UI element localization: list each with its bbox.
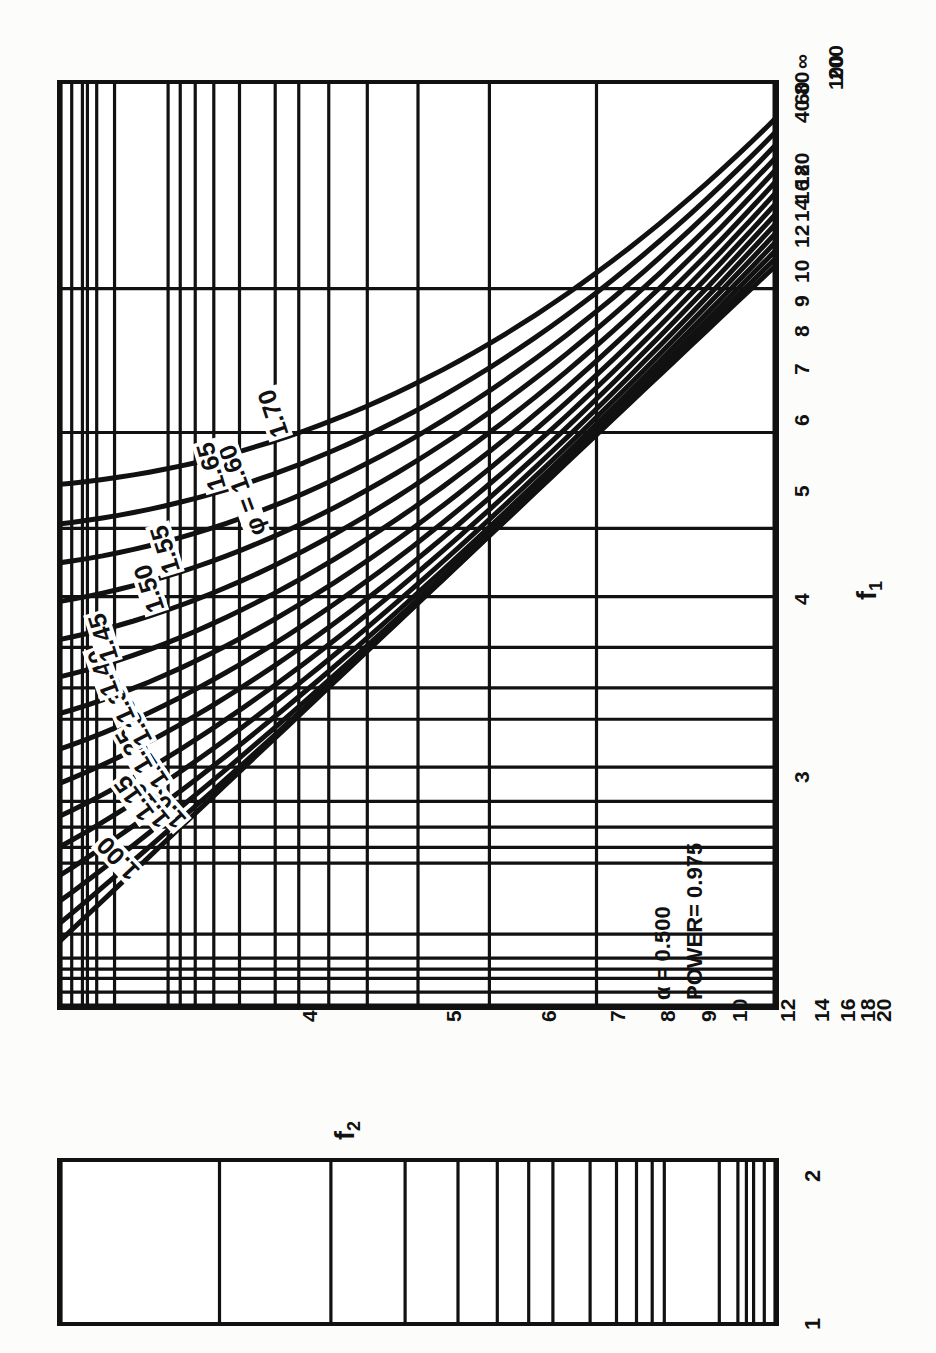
f2-tick-10: 10 — [728, 999, 752, 1022]
f2-tick-16: 16 — [836, 999, 860, 1022]
f1-tick-20: 20 — [790, 153, 814, 176]
f1-tick-∞: ∞ — [790, 54, 814, 69]
bottom-scale-panel — [57, 1158, 779, 1326]
f1-axis-title: f1 — [852, 581, 887, 600]
bottom-panel-gridlines — [61, 1162, 775, 1322]
f1-tick-7: 7 — [790, 364, 814, 376]
f1-tick-12: 12 — [790, 224, 814, 247]
alpha-annotation: α = 0.500 — [650, 906, 676, 1000]
f1-tick-5: 5 — [790, 486, 814, 498]
f2-tick-4: 4 — [298, 1010, 322, 1022]
f1-tick-3: 3 — [790, 771, 814, 783]
f2-tick-8: 8 — [656, 1010, 680, 1022]
bottom-panel-right-label: 2 — [800, 1170, 826, 1182]
f1-tick-200: 200 — [824, 45, 848, 80]
f1-tick-8: 8 — [790, 325, 814, 337]
f2-tick-7: 7 — [606, 1010, 630, 1022]
f2-tick-14: 14 — [810, 999, 834, 1022]
bottom-panel-left-label: 1 — [800, 1318, 826, 1330]
f1-tick-4: 4 — [790, 593, 814, 605]
power-annotation: POWER= 0.975 — [682, 843, 708, 1000]
f2-tick-18: 18 — [856, 999, 880, 1022]
f2-tick-5: 5 — [442, 1010, 466, 1022]
figure-root: 1.001.051.101.151.201.251.301.351.401.45… — [0, 0, 936, 1353]
f2-tick-12: 12 — [776, 999, 800, 1022]
f1-tick-10: 10 — [790, 260, 814, 283]
f1-tick-6: 6 — [790, 414, 814, 426]
f1-tick-9: 9 — [790, 295, 814, 307]
f1-tick-80: 80 — [790, 72, 814, 95]
f2-tick-9: 9 — [697, 1010, 721, 1022]
main-nomogram-plot: 1.001.051.101.151.201.251.301.351.401.45… — [57, 80, 779, 1010]
f2-axis-title: f2 — [330, 1121, 365, 1140]
f2-tick-6: 6 — [537, 1010, 561, 1022]
